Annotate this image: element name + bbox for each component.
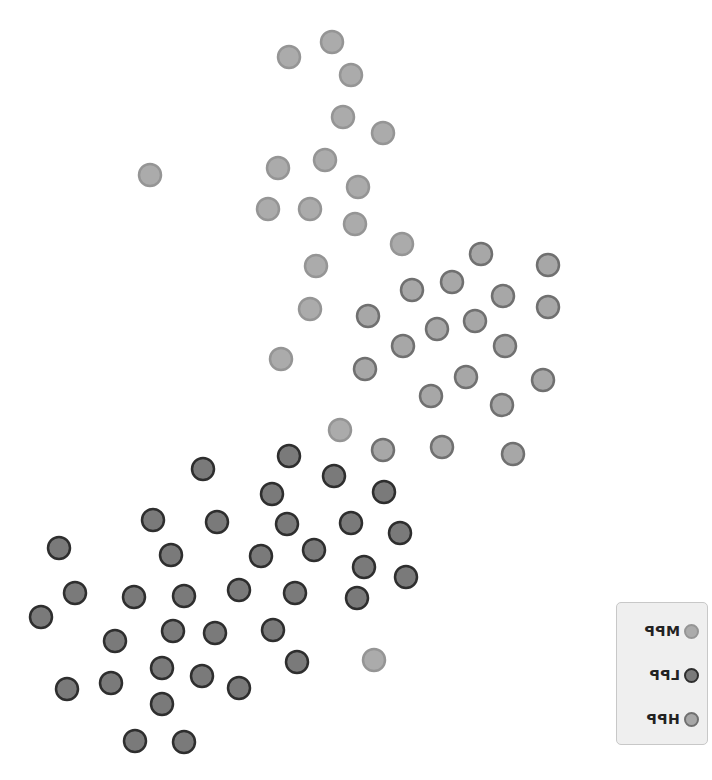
data-point <box>284 582 306 604</box>
data-point <box>353 556 375 578</box>
data-point <box>173 731 195 753</box>
data-point <box>276 513 298 535</box>
data-point <box>262 619 284 641</box>
data-point <box>389 522 411 544</box>
data-point <box>160 544 182 566</box>
data-point <box>151 657 173 679</box>
data-point <box>261 483 283 505</box>
legend-label-hpp: HPP <box>646 711 680 727</box>
data-point <box>323 465 345 487</box>
data-point <box>206 511 228 533</box>
data-point <box>431 436 453 458</box>
data-point <box>470 243 492 265</box>
scatter-plot <box>0 0 712 780</box>
data-point <box>305 255 327 277</box>
data-point <box>464 310 486 332</box>
data-point <box>321 31 343 53</box>
data-point <box>357 305 379 327</box>
data-point <box>286 651 308 673</box>
data-point <box>346 587 368 609</box>
data-point <box>191 665 213 687</box>
data-point <box>257 198 279 220</box>
data-point <box>278 445 300 467</box>
data-point <box>142 509 164 531</box>
data-point <box>532 369 554 391</box>
data-point <box>441 271 463 293</box>
data-point <box>372 439 394 461</box>
data-point <box>455 366 477 388</box>
hpp-marker-icon <box>684 712 699 727</box>
legend-item-hpp: HPP <box>646 709 699 729</box>
series-hpp <box>354 243 559 465</box>
data-point <box>151 693 173 715</box>
data-point <box>494 335 516 357</box>
legend-item-lpp: LPP <box>649 665 699 685</box>
data-point <box>347 176 369 198</box>
data-point <box>162 620 184 642</box>
data-point <box>192 458 214 480</box>
data-point <box>426 318 448 340</box>
lpp-marker-icon <box>684 668 699 683</box>
legend-label-lpp: LPP <box>649 667 680 683</box>
data-point <box>250 545 272 567</box>
data-point <box>354 358 376 380</box>
data-point <box>278 46 300 68</box>
data-point <box>344 213 366 235</box>
data-point <box>340 512 362 534</box>
data-point <box>270 348 292 370</box>
data-point <box>64 582 86 604</box>
data-point <box>491 394 513 416</box>
data-point <box>392 335 414 357</box>
data-point <box>395 566 417 588</box>
data-point <box>537 254 559 276</box>
data-point <box>267 157 289 179</box>
data-point <box>303 539 325 561</box>
data-point <box>373 481 395 503</box>
legend-label-mpp: MPP <box>644 623 680 639</box>
data-point <box>56 678 78 700</box>
data-point <box>340 64 362 86</box>
data-point <box>363 649 385 671</box>
mpp-marker-icon <box>684 624 699 639</box>
data-point <box>100 672 122 694</box>
data-point <box>204 622 226 644</box>
data-point <box>329 419 351 441</box>
data-point <box>332 106 354 128</box>
data-point <box>139 164 161 186</box>
data-point <box>299 298 321 320</box>
data-point <box>299 198 321 220</box>
data-point <box>104 630 126 652</box>
data-point <box>391 233 413 255</box>
data-point <box>30 606 52 628</box>
data-point <box>314 149 336 171</box>
data-point <box>420 385 442 407</box>
data-point <box>492 285 514 307</box>
data-point <box>48 537 70 559</box>
data-point <box>173 585 195 607</box>
data-point <box>124 730 146 752</box>
data-point <box>228 579 250 601</box>
series-lpp <box>30 445 417 753</box>
data-point <box>537 296 559 318</box>
data-point <box>401 279 423 301</box>
legend-item-mpp: MPP <box>644 621 699 641</box>
legend: MPP LPP HPP <box>616 602 708 745</box>
data-point <box>372 122 394 144</box>
data-point <box>502 443 524 465</box>
data-point <box>123 586 145 608</box>
data-point <box>228 677 250 699</box>
